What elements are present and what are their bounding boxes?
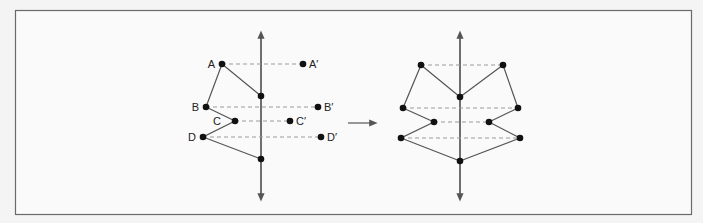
point — [203, 104, 210, 111]
point — [200, 134, 207, 141]
reflection-diagram: ABCDA′B′C′D′ — [0, 0, 703, 223]
point — [457, 158, 464, 165]
frame — [16, 11, 692, 215]
point-label: B — [192, 101, 199, 113]
point — [431, 119, 438, 126]
point — [517, 135, 524, 142]
point-label: A — [208, 58, 216, 70]
point — [315, 104, 322, 111]
point-label: D — [188, 131, 196, 143]
point — [457, 94, 464, 101]
point-label: D′ — [327, 131, 337, 143]
point — [398, 135, 405, 142]
point — [486, 119, 493, 126]
point — [515, 105, 522, 112]
point — [418, 62, 425, 69]
point — [219, 61, 226, 68]
point-label: C — [213, 115, 221, 127]
point — [287, 118, 294, 125]
point-label: C′ — [296, 115, 306, 127]
point — [258, 156, 265, 163]
point — [258, 93, 265, 100]
point — [400, 105, 407, 112]
point — [232, 118, 239, 125]
point — [318, 134, 325, 141]
point-label: B′ — [324, 101, 333, 113]
point — [300, 61, 307, 68]
point-label: A′ — [309, 58, 318, 70]
point — [500, 62, 507, 69]
